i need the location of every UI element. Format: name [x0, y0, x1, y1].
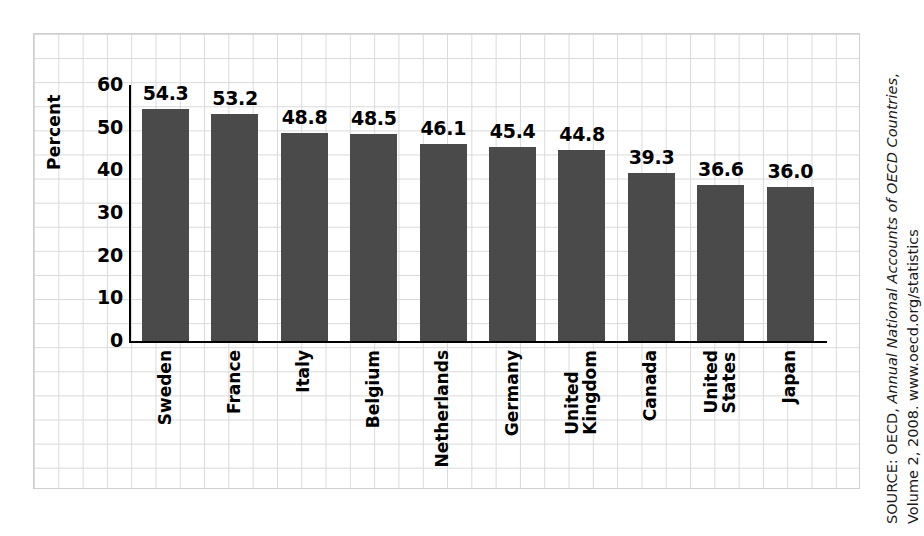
bar[interactable] [350, 134, 397, 341]
y-tick-10: 10 [77, 288, 123, 307]
x-category-label: UnitedStates [703, 350, 739, 414]
x-category-label: Japan [781, 350, 799, 404]
x-category-slot: UnitedKingdom [547, 350, 616, 490]
x-category-slot: Belgium [339, 350, 408, 490]
x-category-slot: UnitedStates [686, 350, 755, 490]
x-category-slot: Sweden [131, 350, 200, 490]
x-category-slot: Japan [756, 350, 825, 490]
x-category-label-line: Canada [641, 350, 661, 421]
bar-value-label: 46.1 [409, 119, 478, 138]
x-category-label-line: United [701, 350, 721, 414]
bar-value-label: 44.8 [547, 125, 616, 144]
x-category-slot: Italy [270, 350, 339, 490]
y-tick-30: 30 [77, 203, 123, 222]
bar-slot: 46.1 [409, 85, 478, 341]
x-category-label: Germany [504, 350, 522, 436]
bar-slot: 53.2 [200, 85, 269, 341]
x-category-label: UnitedKingdom [564, 350, 600, 435]
bar[interactable] [489, 147, 536, 341]
x-axis-baseline [129, 341, 827, 343]
source-suffix: , [884, 73, 900, 78]
y-axis-title: Percent [44, 94, 64, 170]
bar-slot: 45.4 [478, 85, 547, 341]
x-category-label-line: Belgium [363, 350, 383, 428]
bar[interactable] [281, 133, 328, 341]
x-category-slot: Netherlands [409, 350, 478, 490]
y-tick-60: 60 [77, 75, 123, 94]
bar-value-label: 36.0 [756, 162, 825, 181]
source-note: SOURCE: OECD, Annual National Accounts o… [882, 8, 924, 524]
bar-slot: 54.3 [131, 85, 200, 341]
x-category-label-line: States [721, 350, 739, 414]
bar-value-label: 54.3 [131, 84, 200, 103]
bar-value-label: 48.5 [339, 109, 408, 128]
bar-value-label: 48.8 [270, 108, 339, 127]
chart-page: Percent 6050403020100 54.353.248.848.546… [0, 0, 924, 536]
x-category-label: France [226, 350, 244, 414]
bar[interactable] [142, 109, 189, 341]
bar[interactable] [211, 114, 258, 341]
bar[interactable] [767, 187, 814, 341]
x-category-label-line: Sweden [155, 350, 175, 425]
x-category-label-line: Italy [294, 350, 314, 393]
y-axis-tick-labels: 6050403020100 [75, 0, 123, 536]
y-tick-50: 50 [77, 118, 123, 137]
bar-value-label: 39.3 [617, 148, 686, 167]
bar-value-label: 36.6 [686, 160, 755, 179]
bar[interactable] [420, 144, 467, 341]
y-tick-0: 0 [77, 331, 123, 350]
bar-slot: 44.8 [547, 85, 616, 341]
bar-slot: 39.3 [617, 85, 686, 341]
x-category-slot: Germany [478, 350, 547, 490]
x-category-slot: Canada [617, 350, 686, 490]
plot-area: 54.353.248.848.546.145.444.839.336.636.0 [131, 85, 825, 341]
bar-slot: 36.0 [756, 85, 825, 341]
bar-value-label: 53.2 [200, 89, 269, 108]
y-tick-20: 20 [77, 246, 123, 265]
x-category-label-line: France [224, 350, 244, 414]
bar-slot: 48.8 [270, 85, 339, 341]
x-category-label-line: Japan [779, 350, 799, 404]
x-category-label: Sweden [157, 350, 175, 425]
x-category-label: Italy [296, 350, 314, 393]
x-category-label: Netherlands [434, 350, 452, 468]
bar[interactable] [697, 185, 744, 341]
bar-slot: 36.6 [686, 85, 755, 341]
x-category-label: Canada [643, 350, 661, 421]
bar-value-label: 45.4 [478, 122, 547, 141]
bar-slot: 48.5 [339, 85, 408, 341]
bar[interactable] [558, 150, 605, 341]
x-category-label-line: Germany [502, 350, 522, 436]
source-prefix: SOURCE: OECD, [884, 404, 900, 524]
source-line-2: Volume 2, 2008. www.oecd.org/statistics [903, 8, 924, 524]
x-category-slot: France [200, 350, 269, 490]
source-publication-title: Annual National Accounts of OECD Countri… [884, 78, 900, 404]
x-category-label-line: Kingdom [582, 350, 600, 435]
y-tick-40: 40 [77, 160, 123, 179]
x-category-label-line: Netherlands [432, 350, 452, 468]
x-category-label: Belgium [365, 350, 383, 428]
bar[interactable] [628, 173, 675, 341]
